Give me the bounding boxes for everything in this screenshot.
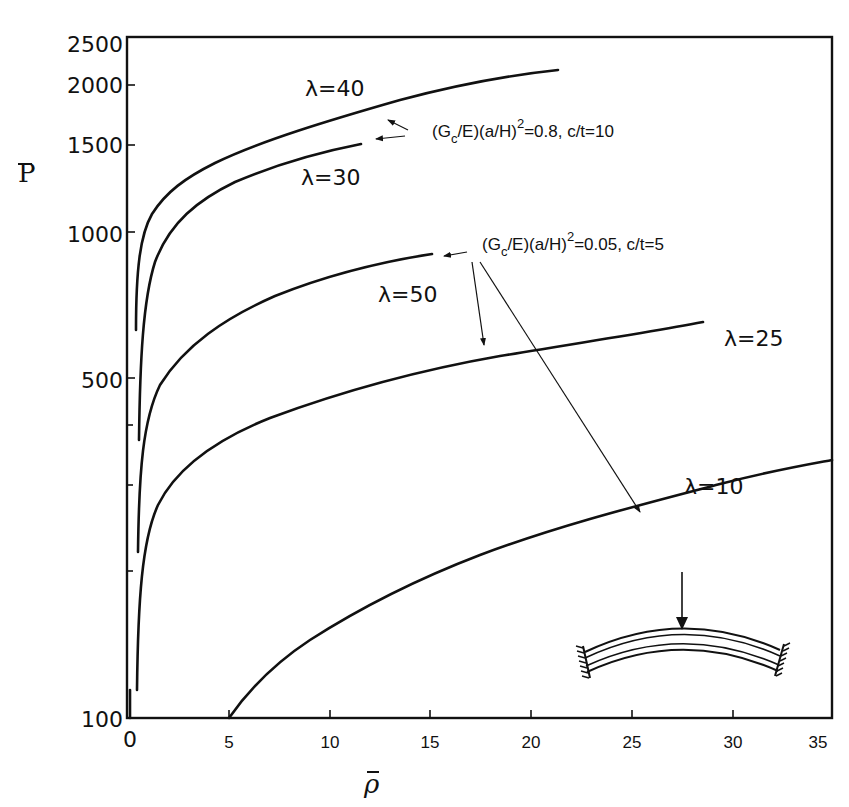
- curves: [130, 70, 832, 718]
- x-axis-label-text: ρ: [363, 769, 380, 799]
- x-tick-label-30: 30: [724, 733, 743, 752]
- label-lambda-10: λ=10: [684, 474, 743, 499]
- arch-inner-top: [586, 644, 779, 666]
- x-tick-label-35: 35: [809, 733, 828, 752]
- x-tick-label-25: 25: [623, 733, 642, 752]
- y-axis-label: P: [18, 158, 36, 188]
- annotation-gc-0.05: (Gc/E)(a/H)2=0.05, c/t=5: [444, 229, 664, 512]
- arrow-to-lambda-10: [480, 262, 640, 512]
- y-tick-label-1000: 1000: [67, 222, 123, 247]
- arrow-to-lambda-30: [376, 136, 405, 139]
- arch-outer-top: [585, 628, 780, 652]
- y-tick-label-1500: 1500: [67, 133, 123, 158]
- x-axis-label: ρ: [363, 769, 380, 799]
- x-tick-label-20: 20: [522, 733, 541, 752]
- arrow-to-lambda-40: [388, 120, 408, 130]
- y-axis: 2500 2000 1500 1000 500 100 P: [18, 32, 135, 732]
- annotation-text: (Gc/E)(a/H)2=0.05, c/t=5: [482, 229, 664, 259]
- arrow-to-lambda-25: [472, 262, 484, 345]
- inset-arch-diagram: [576, 572, 790, 678]
- chart-canvas: 2500 2000 1500 1000 500 100 P 0 5 10 15 …: [0, 0, 849, 807]
- x-tick-label-15: 15: [421, 733, 440, 752]
- y-axis-label-text: P: [18, 158, 36, 188]
- x-tick-label-0: 0: [123, 727, 137, 752]
- x-tick-label-5: 5: [224, 733, 233, 752]
- annotation-text: (Gc/E)(a/H)2=0.8, c/t=10: [432, 116, 614, 146]
- label-lambda-40: λ=40: [305, 76, 364, 101]
- y-tick-label-100: 100: [81, 707, 123, 732]
- x-axis: 0 5 10 15 20 25 30 35 ρ: [123, 710, 827, 799]
- label-lambda-25: λ=25: [724, 326, 783, 351]
- y-tick-label-2000: 2000: [67, 73, 123, 98]
- y-tick-label-2500: 2500: [67, 32, 123, 57]
- label-lambda-30: λ=30: [301, 165, 360, 190]
- y-tick-label-500: 500: [81, 368, 123, 393]
- x-tick-label-10: 10: [321, 733, 340, 752]
- curve-lambda-25: [137, 322, 703, 690]
- annotation-gc-0.8: (Gc/E)(a/H)2=0.8, c/t=10: [376, 116, 614, 146]
- arrow-to-lambda-50: [444, 252, 467, 256]
- label-lambda-50: λ=50: [378, 282, 437, 307]
- curve-lambda-40: [136, 70, 558, 330]
